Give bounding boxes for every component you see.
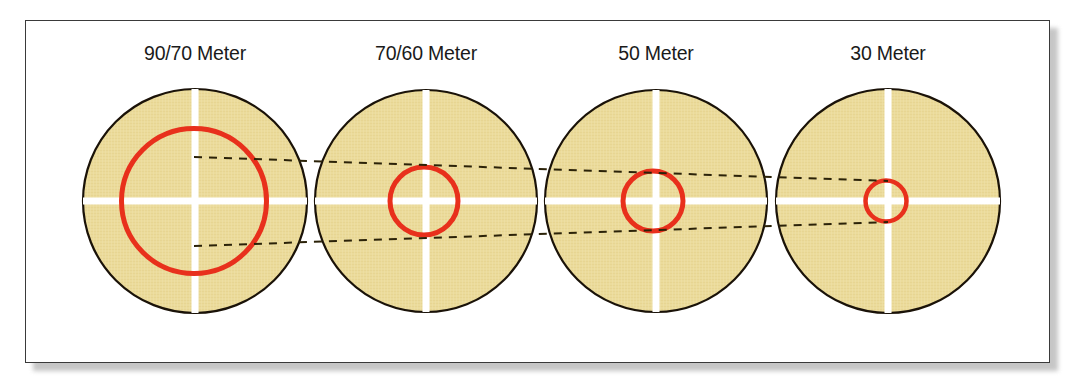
target-group-3[interactable]: 50 Meter [545,42,767,312]
target-label-4: 30 Meter [850,42,926,64]
target-label-1: 90/70 Meter [144,42,247,64]
figure-root: 90/70 Meter 70/60 Meter 50 Meter 30 Mete… [0,0,1081,383]
target-group-2[interactable]: 70/60 Meter [315,42,537,312]
target-label-2: 70/60 Meter [375,42,478,64]
target-group-1[interactable]: 90/70 Meter [83,42,307,313]
targets-diagram: 90/70 Meter 70/60 Meter 50 Meter 30 Mete… [0,0,1081,383]
target-label-3: 50 Meter [618,42,694,64]
